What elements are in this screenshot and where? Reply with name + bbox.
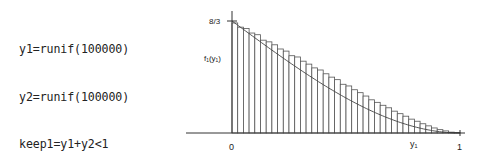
histogram-bar <box>375 102 381 133</box>
histogram-bar <box>289 56 295 133</box>
histogram-bar <box>243 28 249 133</box>
histogram-bar <box>357 93 363 133</box>
histogram-bar <box>232 23 238 133</box>
histogram-chart: 8/3 f₁(y₁) 0 y₁ 1 <box>0 0 485 156</box>
y-tick-label-8-3: 8/3 <box>209 17 221 26</box>
histogram-bar <box>392 111 398 133</box>
histogram-bars <box>232 23 460 133</box>
histogram-bar <box>363 96 369 133</box>
histogram-bar <box>272 45 278 133</box>
histogram-bar <box>369 100 375 133</box>
histogram-bar <box>249 33 255 133</box>
x-tick-label-zero: 0 <box>229 142 234 152</box>
histogram-bar <box>278 49 284 133</box>
histogram-bar <box>335 80 341 133</box>
histogram-bar <box>255 35 261 133</box>
histogram-bar <box>386 108 392 133</box>
x-axis-label: y₁ <box>410 139 418 149</box>
histogram-bar <box>261 40 267 133</box>
histogram-bar <box>318 70 324 133</box>
histogram-bar <box>329 77 335 133</box>
histogram-bar <box>238 27 244 133</box>
x-tick-label-one: 1 <box>457 142 462 152</box>
histogram-bar <box>352 90 358 133</box>
y-axis-label: f₁(y₁) <box>204 54 221 63</box>
histogram-bar <box>266 42 272 133</box>
histogram-bar <box>340 84 346 133</box>
histogram-bar <box>346 86 352 133</box>
histogram-bar <box>283 51 289 133</box>
histogram-bar <box>380 105 386 133</box>
histogram-bar <box>323 74 329 133</box>
